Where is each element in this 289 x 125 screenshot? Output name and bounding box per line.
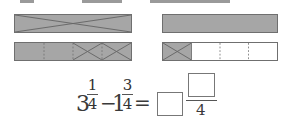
term2-fraction: 3 4	[122, 78, 133, 112]
left-top-bar	[14, 14, 132, 33]
answer-denominator: 4	[196, 103, 206, 118]
answer-numerator-input[interactable]	[188, 73, 215, 97]
term1-fraction: 1 4	[87, 78, 98, 112]
partition-lines	[15, 43, 131, 60]
cropped-top-content	[150, 0, 230, 3]
term1-numerator: 1	[87, 78, 99, 94]
equals-sign: =	[134, 93, 151, 113]
term1-denominator: 4	[88, 95, 98, 112]
right-top-bar	[162, 14, 278, 33]
term2-numerator: 3	[122, 78, 134, 94]
answer-whole-input[interactable]	[157, 92, 183, 116]
term2-denominator: 4	[123, 95, 133, 112]
left-bottom-bar	[14, 42, 132, 61]
cropped-top-content	[82, 0, 122, 3]
right-bottom-bar	[162, 42, 278, 61]
partition-lines	[163, 43, 277, 60]
cropped-top-content	[20, 0, 34, 3]
cross-out-icon	[15, 15, 131, 32]
